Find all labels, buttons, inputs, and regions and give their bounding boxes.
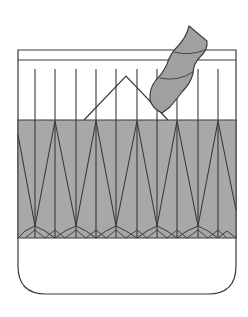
gray-band [18,120,236,238]
emblem-shield [0,0,248,317]
